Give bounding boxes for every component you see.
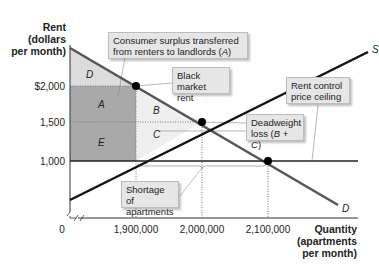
price-ceiling-callout: Rent control price ceiling <box>286 77 350 104</box>
y-tick-2000: $2,000 <box>34 81 65 92</box>
black-market-rent-callout: Black market rent <box>172 67 230 94</box>
x-tick-0: 0 <box>59 224 65 235</box>
callout-close: ) <box>228 46 231 57</box>
region-c-label: C <box>153 129 161 140</box>
axis-break-icon <box>67 212 84 221</box>
callout-loss: loss ( <box>251 128 274 139</box>
callout-line-1: Black <box>177 70 200 81</box>
y-axis-title-2: (dollars <box>28 33 66 45</box>
region-e-label: E <box>98 137 105 148</box>
x-tick-1900000: 1,900,000 <box>114 224 159 235</box>
y-tick-1000: 1,000 <box>40 156 65 167</box>
y-axis-title-3: per month) <box>11 45 66 57</box>
callout-line-1: Shortage of <box>126 184 165 206</box>
callout-line-1: Consumer surplus transferred <box>113 35 239 46</box>
callout-close: ) <box>258 139 261 150</box>
equilibrium-point <box>198 118 206 126</box>
callout-line-2: price ceiling <box>291 91 341 102</box>
callout-line-1: Deadweight <box>251 117 301 128</box>
callout-plus: + <box>280 128 288 139</box>
supply-label: S <box>372 44 379 55</box>
deadweight-loss-callout: Deadweight loss (B + C) <box>246 114 304 141</box>
consumer-surplus-callout: Consumer surplus transferred from renter… <box>108 32 248 59</box>
callout-line-2: apartments <box>126 206 174 217</box>
region-a-label: A <box>97 99 105 110</box>
ceiling-demand-point <box>264 157 272 165</box>
x-tick-2100000: 2,100,000 <box>246 224 291 235</box>
x-axis-title-1: Quantity <box>314 223 357 235</box>
x-axis-title-2: (apartments <box>297 235 357 247</box>
shortage-callout: Shortage of apartments <box>121 181 179 208</box>
callout-line-1: Rent control <box>291 80 342 91</box>
black-market-point <box>132 82 140 90</box>
callout-c: C <box>251 139 258 150</box>
demand-label: D <box>342 203 349 214</box>
region-b-label: B <box>153 105 160 116</box>
callout-line-2: from renters to landlords ( <box>113 46 222 57</box>
y-tick-1500: 1,500 <box>40 117 65 128</box>
x-tick-2000000: 2,000,000 <box>180 224 225 235</box>
y-axis-title-1: Rent <box>43 21 67 33</box>
region-a-e <box>70 86 136 161</box>
x-axis-title-3: per month) <box>302 247 357 259</box>
region-d-label: D <box>86 69 93 80</box>
